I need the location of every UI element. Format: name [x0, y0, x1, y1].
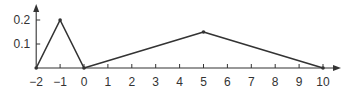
x-tick-label: 4 — [176, 75, 183, 89]
x-tick-label: −1 — [53, 75, 67, 89]
x-tick-label: 2 — [128, 75, 135, 89]
data-point — [34, 66, 38, 70]
data-point — [321, 66, 325, 70]
x-tick-label: 9 — [296, 75, 303, 89]
data-point — [82, 66, 86, 70]
axis-ticks: −2−10123456789100.10.2 — [14, 13, 330, 89]
x-tick-label: 0 — [81, 75, 88, 89]
x-tick-label: 1 — [105, 75, 112, 89]
x-tick-label: 10 — [316, 75, 330, 89]
y-axis-arrow-icon — [33, 4, 39, 12]
y-tick-label: 0.2 — [14, 13, 31, 27]
data-point — [58, 18, 62, 22]
series-line — [36, 20, 323, 68]
x-tick-label: 5 — [200, 75, 207, 89]
data-point — [202, 30, 206, 34]
x-tick-label: 6 — [224, 75, 231, 89]
x-axis-arrow-icon — [333, 65, 341, 71]
y-tick-label: 0.1 — [14, 37, 31, 51]
x-tick-label: 8 — [272, 75, 279, 89]
line-chart: −2−10123456789100.10.2 — [0, 0, 354, 95]
x-tick-label: 7 — [248, 75, 255, 89]
x-tick-label: −2 — [29, 75, 43, 89]
data-series — [34, 18, 324, 70]
chart-canvas: −2−10123456789100.10.2 — [0, 0, 354, 95]
x-tick-label: 3 — [152, 75, 159, 89]
